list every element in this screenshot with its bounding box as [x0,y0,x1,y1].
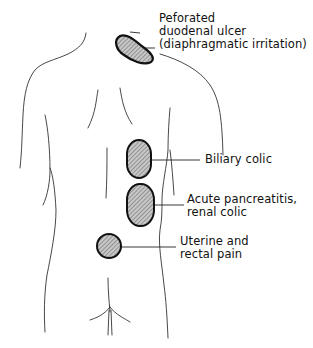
label-duodenal-ulcer: Peforated duodenal ulcer (diaphragmatic … [159,12,307,51]
region-biliary [127,140,151,178]
label-line: (diaphragmatic irritation) [159,38,307,51]
label-line: renal colic [187,206,297,219]
label-line: Biliary colic [205,153,272,166]
referred-pain-diagram: Peforated duodenal ulcer (diaphragmatic … [0,0,313,348]
body-outline-drawing [0,0,313,348]
body-outline [20,33,223,338]
region-sacral [97,234,121,258]
label-uterine-rectal: Uterine and rectal pain [180,235,249,261]
label-biliary-colic: Biliary colic [205,153,272,166]
region-shoulder [116,35,153,63]
label-line: rectal pain [180,248,249,261]
label-pancreatitis: Acute pancreatitis, renal colic [187,193,297,219]
region-pancreas [127,184,154,226]
